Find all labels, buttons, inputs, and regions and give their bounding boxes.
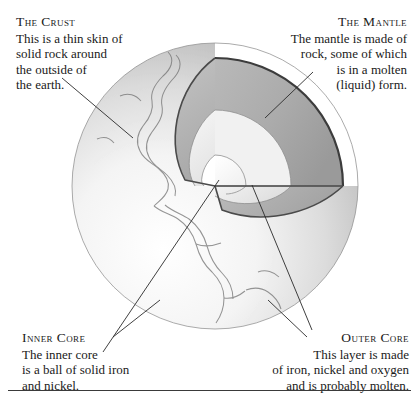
- callout-crust-body: This is a thin skin of solid rock around…: [16, 31, 123, 92]
- callout-mantle-body: The mantle is made of rock, some of whic…: [291, 31, 407, 92]
- callout-inner-core-title: Inner Core: [22, 330, 129, 346]
- callout-crust-line-3: the outside of: [16, 62, 123, 77]
- callout-inner-core-line-1: The inner core: [22, 347, 129, 362]
- callout-outer-core-line-1: This layer is made: [272, 347, 409, 362]
- callout-crust-title: The Crust: [16, 14, 123, 30]
- callout-inner-core: Inner Core The inner core is a ball of s…: [22, 330, 129, 393]
- earth-layers-diagram-page: The Crust This is a thin skin of solid r…: [0, 0, 419, 405]
- callout-outer-core: Outer Core This layer is made of iron, n…: [272, 330, 409, 393]
- callout-crust-line-2: solid rock around: [16, 46, 123, 61]
- callout-mantle-title: The Mantle: [291, 14, 407, 30]
- callout-mantle: The Mantle The mantle is made of rock, s…: [291, 14, 407, 92]
- callout-mantle-line-2: rock, some of which: [291, 46, 407, 61]
- callout-mantle-line-1: The mantle is made of: [291, 31, 407, 46]
- callout-outer-core-body: This layer is made of iron, nickel and o…: [272, 347, 409, 393]
- callout-crust: The Crust This is a thin skin of solid r…: [16, 14, 123, 92]
- callout-inner-core-body: The inner core is a ball of solid iron a…: [22, 347, 129, 393]
- bottom-divider-rule: [8, 390, 411, 391]
- callout-mantle-line-4: (liquid) form.: [291, 77, 407, 92]
- callout-outer-core-title: Outer Core: [272, 330, 409, 346]
- callout-inner-core-line-2: is a ball of solid iron: [22, 362, 129, 377]
- callout-mantle-line-3: is in a molten: [291, 62, 407, 77]
- callout-crust-line-1: This is a thin skin of: [16, 31, 123, 46]
- callout-crust-line-4: the earth.: [16, 77, 123, 92]
- callout-outer-core-line-2: of iron, nickel and oxygen: [272, 362, 409, 377]
